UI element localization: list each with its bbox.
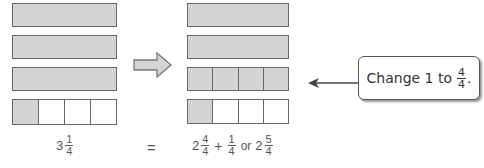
fraction: 1 4 xyxy=(65,134,73,157)
fourth-cell-shaded xyxy=(212,68,237,90)
callout-text: Change 1 to xyxy=(367,70,452,86)
whole-part: 3 xyxy=(56,138,63,153)
fraction: 5 4 xyxy=(265,134,273,157)
left-whole-bar-2 xyxy=(12,35,117,59)
fourth-cell-shaded xyxy=(238,68,263,90)
fourth-cell xyxy=(90,100,116,124)
or-word: or xyxy=(241,139,252,153)
right-whole-bar-1 xyxy=(187,3,289,27)
fourth-cell-shaded xyxy=(188,68,212,90)
right-fourths-bar-partial xyxy=(187,99,289,124)
right-arrow-icon xyxy=(133,52,173,78)
plus-sign: + xyxy=(214,138,222,154)
right-expression-label: 2 4 4 + 1 4 or 2 5 4 xyxy=(192,134,274,157)
denominator: 4 xyxy=(265,146,273,157)
callout-box: Change 1 to 4 4 . xyxy=(358,56,480,100)
denominator: 4 xyxy=(65,146,73,157)
left-whole-bar-3 xyxy=(12,67,117,91)
fraction: 1 4 xyxy=(228,134,236,157)
equals-sign: = xyxy=(147,139,156,156)
denominator: 4 xyxy=(228,146,236,157)
fourth-cell-shaded xyxy=(13,100,38,124)
right-whole-bar-2 xyxy=(187,35,289,59)
numerator: 4 xyxy=(457,67,466,79)
left-pointing-arrow-icon xyxy=(308,76,360,90)
denominator: 4 xyxy=(201,146,209,157)
fourth-cell xyxy=(263,100,288,123)
denominator: 4 xyxy=(457,79,466,90)
left-mixed-number-label: 3 1 4 xyxy=(56,134,74,157)
fourth-cell xyxy=(38,100,64,124)
fraction: 4 4 xyxy=(201,134,209,157)
fourth-cell-shaded xyxy=(263,68,288,90)
right-fourths-bar-full xyxy=(187,67,289,91)
fourth-cell xyxy=(212,100,237,123)
callout-fraction: 4 4 xyxy=(457,67,466,90)
left-whole-bar-1 xyxy=(12,3,117,27)
equals-text: = xyxy=(147,139,156,156)
fourth-cell xyxy=(64,100,90,124)
whole-part: 2 xyxy=(192,138,199,153)
left-fourths-bar xyxy=(12,99,117,125)
fourth-cell xyxy=(238,100,263,123)
callout-period: . xyxy=(467,70,471,86)
whole-part: 2 xyxy=(255,138,262,153)
fourth-cell-shaded xyxy=(188,100,212,123)
